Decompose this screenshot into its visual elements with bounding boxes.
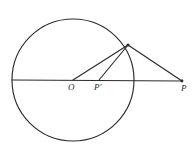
label-point-p-prime: P′ <box>94 83 101 92</box>
label-point-p: P <box>181 84 187 93</box>
geometry-figure: O P′ P <box>0 0 196 152</box>
label-point-o: O <box>68 83 75 92</box>
label-point-p-prime-mark: ′ <box>100 82 102 92</box>
radius-segment-o-to-tangent <box>73 45 128 80</box>
segment-pprime-to-tangent <box>99 45 128 80</box>
geometry-canvas <box>0 0 196 152</box>
segment-tangent-to-p <box>128 45 182 81</box>
tangent-point-marker <box>126 43 129 46</box>
horizontal-axis-line <box>12 80 182 81</box>
outer-point-marker <box>181 80 184 83</box>
